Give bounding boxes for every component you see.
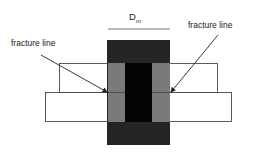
dimension-symbol: D	[129, 11, 136, 22]
dimension-subscript: m	[136, 18, 141, 24]
dimension-label: Dm	[129, 11, 141, 24]
left-fracture-label: fracture line	[11, 38, 55, 48]
weld-core	[125, 63, 152, 122]
right-fracture-label: fracture line	[188, 20, 232, 30]
